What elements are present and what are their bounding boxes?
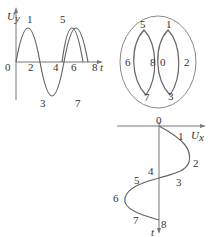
- t-axis-label: t: [151, 226, 155, 237]
- lissajous-diagram: U y 0 1 5 2 4 6 8 t 3 7 5 1 6 8 0 2 7 3 …: [0, 0, 212, 237]
- c-label-8: 8: [161, 218, 167, 230]
- x-axis-label: t: [100, 61, 104, 73]
- c-label-5: 5: [134, 174, 140, 186]
- y-axis-sub: y: [14, 12, 20, 24]
- tick-label-6: 6: [71, 61, 77, 73]
- c-label-7: 7: [133, 214, 139, 226]
- c-label-2: 2: [193, 157, 199, 169]
- origin-label: 0: [5, 61, 11, 73]
- c-label-1: 1: [178, 130, 184, 142]
- c-label-0: 0: [156, 114, 162, 126]
- trough-label-3: 3: [40, 97, 46, 109]
- tick-label-8: 8: [92, 61, 98, 73]
- tick-label-2: 2: [28, 61, 34, 73]
- peak-label-1: 1: [27, 13, 33, 25]
- point-label-7: 7: [144, 91, 150, 103]
- point-label-0: 0: [160, 56, 166, 68]
- figure-uy-vs-t: U y 0 1 5 2 4 6 8 t 3 7: [5, 7, 104, 109]
- tick-label-4: 4: [53, 61, 59, 73]
- peak-label-5: 5: [60, 13, 66, 25]
- c-label-6: 6: [113, 192, 119, 204]
- c-label-4: 4: [148, 165, 154, 177]
- point-label-3: 3: [168, 90, 174, 102]
- point-label-8: 8: [150, 56, 156, 68]
- c-label-3: 3: [176, 176, 182, 188]
- trough-label-7: 7: [75, 97, 81, 109]
- point-label-6: 6: [125, 56, 131, 68]
- point-label-5: 5: [140, 18, 146, 30]
- point-label-1: 1: [166, 18, 172, 30]
- ux-axis-sub: x: [198, 131, 204, 143]
- figure-ux-vs-t: 0 1 2 3 4 5 6 7 8 U x t: [113, 114, 206, 237]
- point-label-2: 2: [184, 56, 190, 68]
- ux-axis-arrow-icon: [200, 124, 206, 128]
- figure-lissajous: 5 1 6 8 0 2 7 3: [120, 16, 196, 108]
